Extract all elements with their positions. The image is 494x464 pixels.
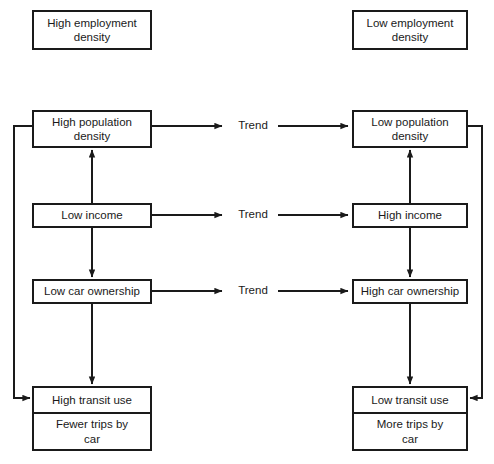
node-high-income: High income [352, 203, 468, 228]
node-low-car-ownership: Low car ownership [32, 279, 152, 304]
diagram-canvas: High employment density High population … [0, 0, 494, 464]
node-high-population-density-label: High population density [34, 112, 150, 146]
node-high-car-ownership-label: High car ownership [354, 281, 466, 302]
node-low-population-density: Low population density [352, 110, 468, 148]
node-low-income-label: Low income [34, 205, 150, 226]
trend-label-car-ownership: Trend [228, 285, 278, 297]
node-low-transit-use-label: Low transit use [354, 388, 466, 414]
node-high-employment-density: High employment density [32, 10, 152, 50]
edge-right-feedback-loop [468, 126, 482, 398]
trend-label-income: Trend [228, 209, 278, 221]
node-high-car-ownership: High car ownership [352, 279, 468, 304]
node-more-trips-by-car-label: More trips by car [354, 414, 466, 449]
node-low-population-density-label: Low population density [354, 112, 466, 146]
node-high-population-density: High population density [32, 110, 152, 148]
node-low-employment-density: Low employment density [352, 10, 468, 50]
node-high-employment-density-label: High employment density [34, 12, 150, 48]
trend-label-population: Trend [228, 120, 278, 132]
node-high-transit-use-label: High transit use [34, 388, 150, 414]
node-fewer-trips-by-car-label: Fewer trips by car [34, 414, 150, 449]
node-low-income: Low income [32, 203, 152, 228]
node-low-transit-use-group: Low transit use More trips by car [352, 386, 468, 451]
node-high-income-label: High income [354, 205, 466, 226]
edge-left-feedback-loop [14, 126, 32, 398]
node-low-car-ownership-label: Low car ownership [34, 281, 150, 302]
node-high-transit-use-group: High transit use Fewer trips by car [32, 386, 152, 451]
node-low-employment-density-label: Low employment density [354, 12, 466, 48]
